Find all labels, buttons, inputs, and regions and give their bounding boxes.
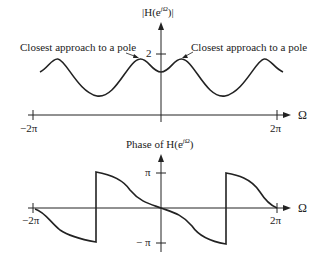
- phase-ylabel: Phase of H(ejΩ): [126, 138, 194, 150]
- mag-tick-label-2: 2: [146, 48, 152, 59]
- phase-tick-label-pi: π: [145, 167, 151, 178]
- phase-y-arrow-icon: [158, 154, 164, 162]
- mag-y-arrow-icon: [158, 22, 164, 30]
- mag-ylabel: |H(ejΩ)|: [142, 6, 174, 18]
- mag-x-arrow-icon: [283, 112, 291, 118]
- phase-xtick-neg2pi: −2π: [22, 215, 39, 226]
- annot-right: Closest approach to a pole: [191, 42, 307, 53]
- annot-left: Closest approach to a pole: [20, 42, 136, 53]
- mag-xtick-2pi: 2π: [270, 123, 281, 134]
- phase-plot: [28, 154, 291, 252]
- phase-tick-label-negpi: − π: [136, 237, 151, 248]
- phase-x-arrow-icon: [283, 205, 291, 211]
- mag-xlabel: Ω: [298, 109, 307, 121]
- magnitude-plot: [28, 22, 291, 122]
- phase-xtick-2pi: 2π: [270, 215, 281, 226]
- phase-xlabel: Ω: [298, 202, 307, 214]
- mag-xtick-neg2pi: −2π: [20, 123, 37, 134]
